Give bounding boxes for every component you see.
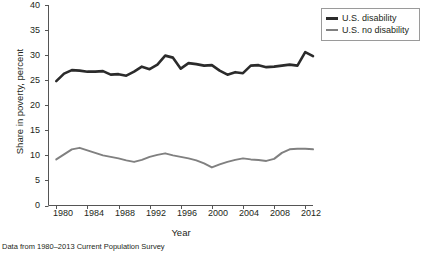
- x-tick-marks: [57, 206, 306, 210]
- source-footnote: Data from 1980–2013 Current Population S…: [2, 242, 165, 251]
- dark-line-swatch-icon: [326, 17, 338, 20]
- legend-item-us-no-disability: U.S. no disability: [326, 24, 415, 36]
- legend-label: U.S. disability: [342, 13, 397, 24]
- chart-legend: U.S. disability U.S. no disability: [321, 8, 420, 41]
- legend-label: U.S. no disability: [342, 25, 409, 36]
- series-line-us-disability: [56, 52, 313, 81]
- legend-item-us-disability: U.S. disability: [326, 12, 415, 24]
- series-line-us-no-disability: [56, 148, 313, 168]
- chart-figure: Share in poverty, percent Year 0 5 10 15…: [0, 0, 425, 256]
- gray-line-swatch-icon: [326, 29, 338, 31]
- y-tick-marks: [45, 6, 49, 207]
